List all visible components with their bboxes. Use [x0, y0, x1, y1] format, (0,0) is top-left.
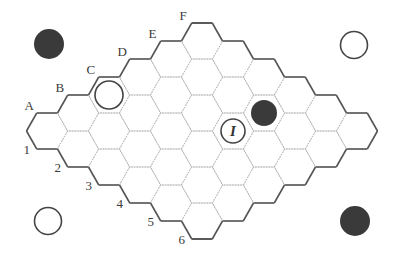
board-cells [27, 23, 378, 239]
row-label-2: 2 [55, 160, 62, 175]
black-stone [251, 100, 277, 126]
column-label-F: F [180, 8, 187, 23]
marker-D4[interactable]: I [221, 119, 245, 143]
hex-board: ABCDEF123456 I [0, 0, 398, 255]
stone-C1-white[interactable] [95, 81, 123, 109]
row-label-5: 5 [148, 214, 155, 229]
marker-label: I [229, 123, 237, 139]
row-label-4: 4 [117, 196, 124, 211]
corner-stone-top-left-black [34, 29, 64, 59]
column-label-A: A [25, 98, 35, 113]
corner-stone-bottom-left-white [35, 208, 62, 235]
corner-stone-top-right-white [341, 32, 368, 59]
row-label-3: 3 [86, 178, 93, 193]
column-label-B: B [56, 80, 65, 95]
row-label-1: 1 [24, 142, 31, 157]
column-label-D: D [118, 44, 127, 59]
white-stone [95, 81, 123, 109]
stone-E4-black[interactable] [251, 100, 277, 126]
row-label-6: 6 [179, 232, 186, 247]
corner-stone-bottom-right-black [340, 206, 370, 236]
column-label-C: C [87, 62, 96, 77]
column-label-E: E [149, 26, 157, 41]
